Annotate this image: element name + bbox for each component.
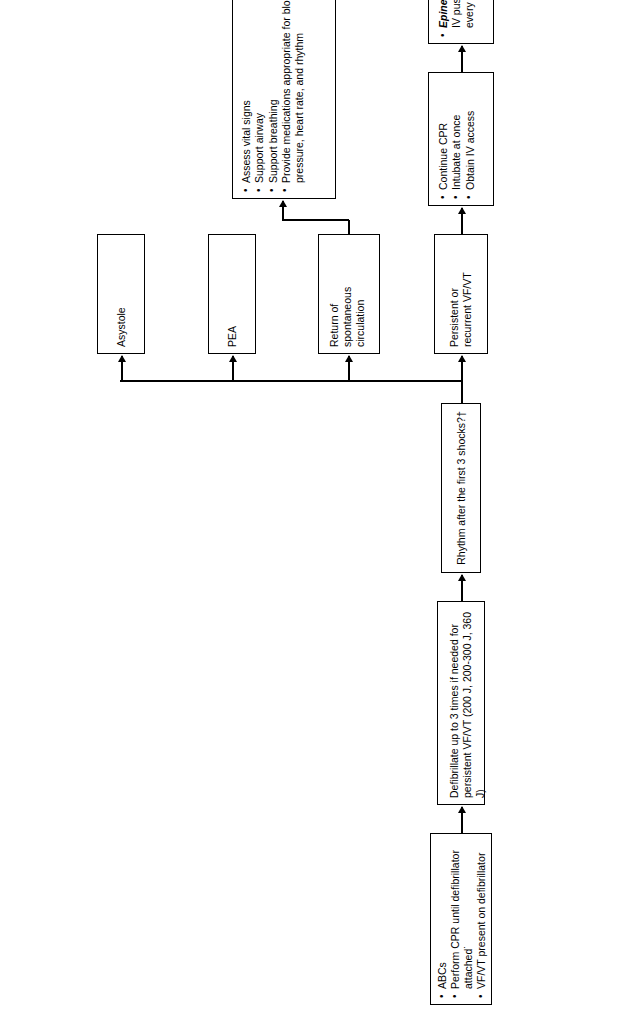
rotated-canvas-overflow: Defibrillate 360 J within 30-60 s‖ Admin… — [0, 0, 642, 1035]
flowchart-page: ABCs Perform CPR until defibrillator att… — [0, 0, 642, 1035]
